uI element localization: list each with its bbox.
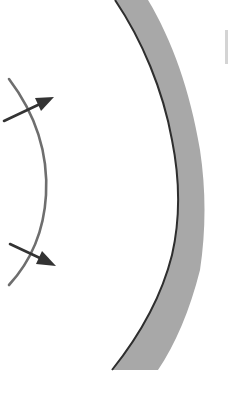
edge-artifact bbox=[225, 30, 228, 64]
curved-surface bbox=[112, 0, 205, 370]
arrow-upper-shaft bbox=[4, 104, 40, 121]
arrow-upper-head-icon bbox=[35, 97, 54, 111]
arrow-lower-shaft bbox=[10, 244, 42, 259]
curved-surface-fill bbox=[112, 0, 205, 370]
arrow-upper bbox=[4, 97, 54, 121]
arrow-lower-head-icon bbox=[36, 251, 56, 266]
wave-reflection-diagram bbox=[0, 0, 228, 393]
